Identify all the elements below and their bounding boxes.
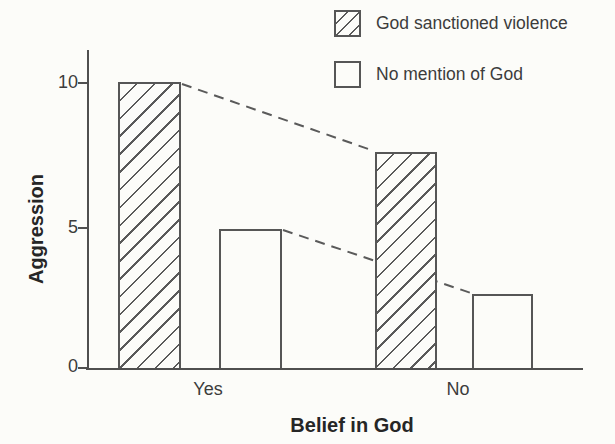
- x-category-no: No: [446, 379, 469, 400]
- legend-label-god-sanctioned: God sanctioned violence: [376, 10, 568, 37]
- bar-yes-god-sanctioned: [118, 82, 181, 370]
- trend-line-god-sanctioned: [182, 84, 374, 151]
- x-axis-line: [86, 368, 583, 370]
- legend-label-no-mention: No mention of God: [376, 61, 523, 88]
- x-axis-title: Belief in God: [290, 414, 413, 437]
- y-tick-label-5: 5: [44, 217, 78, 237]
- bar-no-god-sanctioned: [375, 152, 437, 370]
- x-category-yes: Yes: [193, 379, 222, 400]
- y-tick-label-0: 0: [44, 356, 78, 376]
- bar-chart-figure: 10 5 0 Yes No Belief in God Aggression G…: [0, 0, 615, 444]
- legend-swatch-god-sanctioned: [334, 10, 361, 37]
- bar-no-no-mention: [472, 294, 533, 370]
- legend-swatch-no-mention: [334, 61, 361, 88]
- y-tick-5: [78, 227, 89, 229]
- bar-yes-no-mention: [219, 229, 282, 370]
- y-tick-label-10: 10: [44, 72, 78, 92]
- y-axis-title: Aggression: [25, 174, 48, 284]
- y-tick-0: [78, 367, 89, 369]
- y-tick-10: [78, 82, 89, 84]
- y-axis-line: [87, 50, 89, 370]
